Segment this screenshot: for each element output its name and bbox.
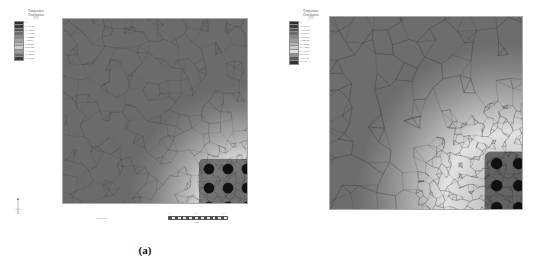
legend-panel-b: Temperature Distribution [°C] 00.196721.…: [289, 10, 333, 64]
legend-color-swatch: [289, 60, 299, 65]
scale-tick: 30: [222, 212, 225, 215]
panel-a: Temperature Distribution [°C] 00.177160.…: [0, 0, 275, 273]
panel-b: Temperature Distribution [°C] 00.196721.…: [275, 0, 550, 273]
scale-bar-a: 01530 mm: [168, 212, 226, 224]
legend-panel-a: Temperature Distribution [°C] 00.177160.…: [14, 10, 58, 60]
scale-tick: 15: [195, 212, 198, 215]
triangular-mesh-a: [63, 19, 248, 204]
legend-entry: 2.71884: [14, 57, 58, 61]
mesh-plot-b: [329, 16, 523, 210]
axis-triad-a: X: [10, 196, 26, 218]
scale-tick-labels: 01530: [168, 212, 226, 215]
axis-triad-label-a: X: [10, 212, 26, 215]
figure-container: Temperature Distribution [°C] 00.177160.…: [0, 0, 550, 273]
legend-entry: 5.999.13: [289, 60, 333, 64]
model-id-a: 07408.08: [96, 217, 107, 220]
axis-arrow-icon: [10, 196, 26, 212]
legend-entry-list: 00.196721.279841.988162.716883.443264.16…: [289, 21, 333, 64]
triangular-mesh-b: [330, 17, 523, 210]
scale-bar-graphic: [168, 216, 228, 220]
legend-color-swatch: [14, 56, 24, 61]
caption-a: (a): [85, 244, 205, 256]
legend-value-label: 2.71884: [25, 57, 34, 60]
legend-value-label: 5.999.13: [300, 60, 310, 63]
scale-bar-unit: mm: [168, 221, 226, 224]
legend-entry-list: 00.177160.718621.171861.548461.88692.222…: [14, 21, 58, 60]
mesh-plot-a: [62, 18, 248, 204]
scale-tick: 0: [169, 212, 170, 215]
